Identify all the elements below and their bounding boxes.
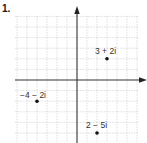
point-2-minus-5i	[95, 131, 99, 135]
point-label: −4 − 2i	[20, 91, 46, 100]
arrow-up-icon	[74, 6, 79, 14]
point-label: 3 + 2i	[95, 47, 116, 56]
point-label: 2 − 5i	[86, 121, 107, 130]
arrow-right-icon	[139, 77, 147, 82]
point-3-plus-2i	[105, 57, 109, 61]
complex-plane	[0, 0, 147, 143]
